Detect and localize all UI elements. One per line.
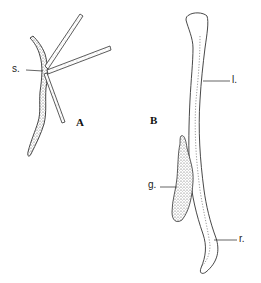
- annotation-g: g.: [148, 180, 156, 190]
- panel-label-a: A: [76, 117, 84, 128]
- scientific-figure: s. A B l. g. r.: [0, 0, 261, 283]
- body-outline: [186, 13, 218, 274]
- figure-drawing: [0, 0, 261, 283]
- leader-line-s: [26, 70, 43, 71]
- annotation-l: l.: [232, 75, 237, 85]
- arm-lower: [44, 73, 65, 123]
- panel-b-drawing: [160, 13, 237, 274]
- annotation-s: s.: [12, 64, 20, 74]
- panel-label-b: B: [150, 115, 157, 126]
- panel-a-drawing: [26, 14, 111, 156]
- annotation-r: r.: [239, 234, 245, 244]
- stipe-body: [28, 36, 48, 156]
